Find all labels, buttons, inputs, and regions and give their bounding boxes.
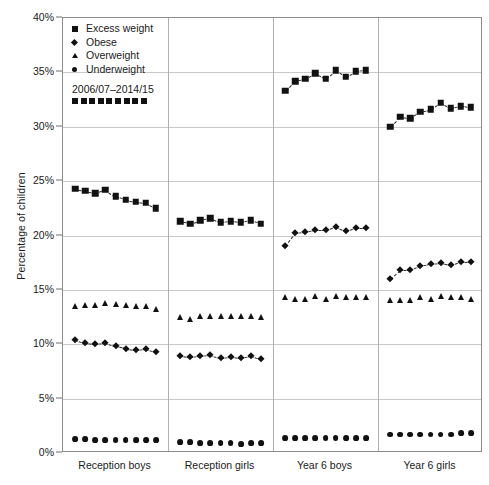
data-point-triangle: [417, 294, 423, 300]
data-point-triangle: [113, 301, 119, 307]
legend-item-label: Overweight: [86, 49, 139, 63]
data-point-circle: [428, 432, 434, 438]
data-point-diamond: [112, 343, 120, 351]
diamond-marker-icon: [72, 40, 86, 45]
data-point-diamond: [81, 339, 89, 347]
period-marker: [98, 98, 104, 104]
data-point-diamond: [417, 262, 425, 270]
data-point-circle: [397, 432, 403, 438]
period-label: 2006/07–2014/15: [72, 83, 192, 95]
data-point-triangle: [228, 313, 234, 319]
data-point-square: [187, 220, 194, 227]
data-point-circle: [102, 437, 108, 443]
gridline: [63, 236, 481, 237]
period-marker: [124, 98, 130, 104]
period-marker: [81, 98, 87, 104]
data-point-triangle: [207, 313, 213, 319]
x-axis-category-label: Reception girls: [185, 459, 254, 471]
data-point-diamond: [312, 226, 320, 234]
y-axis-tick-label: 0%: [2, 446, 54, 458]
data-point-diamond: [152, 348, 160, 356]
period-marker-row: [72, 98, 192, 104]
data-point-triangle: [363, 294, 369, 300]
data-point-square: [397, 114, 404, 121]
data-point-diamond: [71, 336, 79, 344]
period-marker: [141, 98, 147, 104]
data-point-triangle: [353, 294, 359, 300]
data-point-diamond: [362, 224, 370, 232]
data-point-diamond: [227, 353, 235, 361]
data-point-circle: [343, 435, 349, 441]
period-marker: [72, 98, 78, 104]
data-point-triangle: [312, 293, 318, 299]
legend-item-label: Excess weight: [86, 22, 153, 36]
data-point-triangle: [92, 302, 98, 308]
data-point-diamond: [176, 352, 184, 360]
y-axis-tick-label: 25%: [2, 174, 54, 186]
data-point-square: [407, 115, 414, 122]
data-point-circle: [143, 437, 149, 443]
data-point-square: [302, 76, 309, 83]
data-point-circle: [72, 436, 78, 442]
legend-item: Underweight: [72, 63, 180, 77]
data-point-square: [387, 124, 394, 131]
period-note: 2006/07–2014/15: [72, 83, 192, 104]
data-point-circle: [438, 432, 444, 438]
x-axis-category-label: Year 6 boys: [297, 459, 352, 471]
data-point-circle: [312, 435, 318, 441]
data-point-circle: [207, 440, 213, 446]
data-point-triangle: [133, 303, 139, 309]
data-point-circle: [258, 440, 264, 446]
data-point-square: [447, 105, 454, 112]
data-point-triangle: [218, 313, 224, 319]
period-marker: [132, 98, 138, 104]
data-point-diamond: [102, 339, 110, 347]
data-point-square: [322, 76, 329, 83]
data-point-square: [282, 88, 289, 95]
data-point-triangle: [143, 303, 149, 309]
data-point-square: [353, 68, 360, 75]
data-point-square: [112, 193, 119, 200]
gridline: [63, 290, 481, 291]
data-point-circle: [153, 437, 159, 443]
legend-item: Excess weight: [72, 22, 180, 36]
data-point-square: [427, 106, 434, 113]
data-point-triangle: [72, 303, 78, 309]
data-point-triangle: [333, 293, 339, 299]
data-point-triangle: [248, 313, 254, 319]
data-point-square: [92, 190, 99, 197]
data-point-diamond: [352, 224, 360, 232]
data-point-triangle: [197, 313, 203, 319]
y-axis-title: Percentage of children: [15, 126, 27, 326]
data-point-diamond: [322, 226, 330, 234]
data-point-circle: [407, 432, 413, 438]
data-point-triangle: [238, 313, 244, 319]
period-marker: [115, 98, 121, 104]
y-axis-tick-label: 20%: [2, 229, 54, 241]
data-point-diamond: [467, 258, 475, 266]
data-point-triangle: [153, 306, 159, 312]
data-point-triangle: [258, 314, 264, 320]
data-point-triangle: [397, 297, 403, 303]
data-point-triangle: [177, 314, 183, 320]
data-point-square: [153, 205, 160, 212]
y-axis-tick-label: 40%: [2, 11, 54, 23]
data-point-square: [237, 219, 244, 226]
data-point-diamond: [122, 345, 130, 353]
data-point-triangle: [387, 297, 393, 303]
data-point-square: [468, 104, 475, 111]
data-point-square: [217, 219, 224, 226]
data-point-square: [458, 103, 465, 110]
data-point-circle: [387, 432, 393, 438]
data-point-square: [292, 78, 299, 85]
data-point-circle: [228, 440, 234, 446]
data-point-circle: [187, 439, 193, 445]
data-point-diamond: [217, 355, 225, 363]
data-point-circle: [302, 435, 308, 441]
gridline: [63, 399, 481, 400]
legend-item: Obese: [72, 36, 180, 50]
legend: Excess weightObeseOverweightUnderweight: [72, 22, 180, 76]
data-point-triangle: [323, 296, 329, 302]
data-point-triangle: [438, 293, 444, 299]
data-point-square: [72, 185, 79, 192]
